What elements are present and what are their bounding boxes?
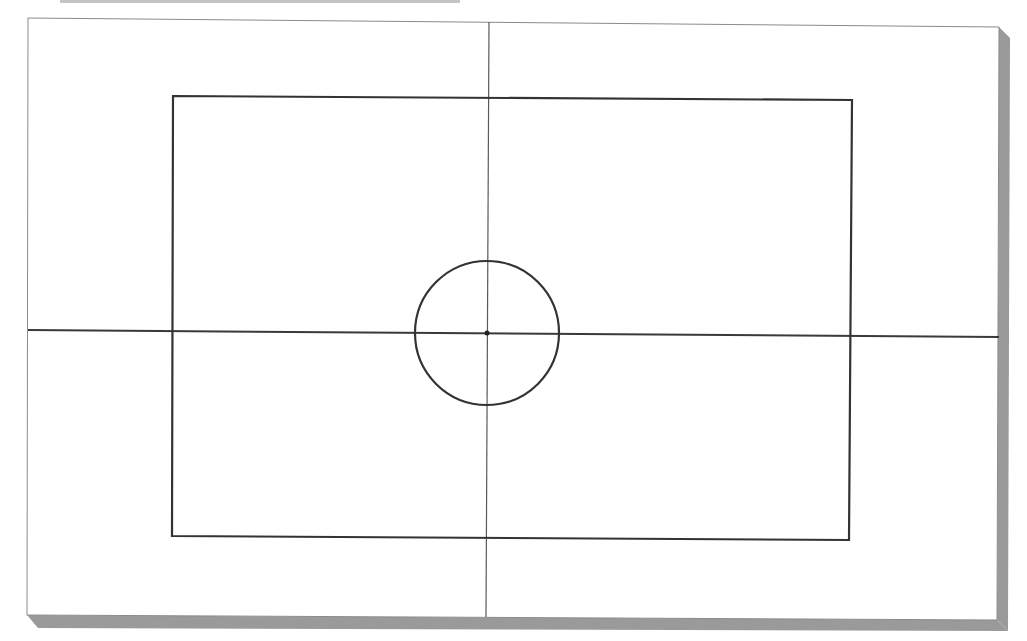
center-point[interactable] <box>485 331 490 336</box>
sketch-canvas <box>0 0 1027 641</box>
